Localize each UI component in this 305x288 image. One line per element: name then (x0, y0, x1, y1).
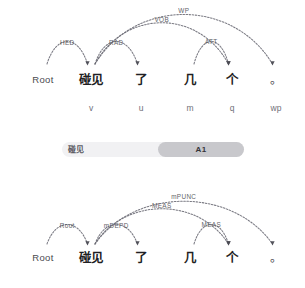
arc-label: VOB (154, 16, 169, 23)
semantic-dependency-parse: RootmDEPDMEASMEASmPUNC Root碰见了几个。 (0, 186, 305, 288)
predicate-label: 碰见 (68, 142, 83, 157)
arc-label: MEAS (152, 202, 172, 209)
semantic-role-bar[interactable]: 碰见 A1 (62, 142, 244, 157)
pos-tag-3[interactable]: m (186, 98, 193, 118)
arc-curve (95, 42, 138, 65)
token-5[interactable]: 。 (270, 70, 282, 90)
arc-label: MEAS (201, 221, 221, 228)
token-0[interactable]: Root (32, 248, 53, 268)
token-row: Root碰见了几个。 (0, 70, 305, 90)
dependency-arc-wp-4: WP (95, 7, 275, 66)
token-row: Root碰见了几个。 (0, 248, 305, 268)
arc-label: WP (178, 7, 189, 14)
dependency-arc-hed-0: HED (47, 39, 90, 66)
syntactic-dependency-parse: HEDRADATTVOBWP Root碰见了几个。 vumqwp (0, 0, 305, 130)
arc-curve (95, 209, 229, 244)
dependency-arc-vob-3: VOB (95, 16, 231, 66)
token-1[interactable]: 碰见 (79, 70, 104, 90)
arrow-head-icon (85, 241, 89, 245)
token-4[interactable]: 个 (226, 248, 239, 268)
arc-label: mPUNC (171, 193, 196, 200)
role-chip-a1[interactable]: A1 (158, 142, 244, 157)
token-5[interactable]: 。 (270, 248, 282, 268)
parse-visualization-page: HEDRADATTVOBWP Root碰见了几个。 vumqwp 碰见 A1 R… (0, 0, 305, 288)
arc-label: Root (60, 222, 75, 229)
dependency-arc-meas-3: MEAS (95, 202, 231, 246)
arc-curve (95, 225, 138, 245)
arc-curve (95, 201, 273, 244)
dependency-arc-mpunc-4: mPUNC (95, 193, 275, 246)
arc-label: RAD (109, 39, 124, 46)
arrow-head-icon (226, 61, 230, 65)
arc-curve (194, 225, 229, 245)
arc-curve (47, 42, 88, 65)
dependency-arc-mdepd-1: mDEPD (95, 222, 140, 246)
arrow-head-icon (226, 241, 230, 245)
dependency-arc-rad-1: RAD (95, 39, 140, 66)
arrow-head-icon (135, 61, 139, 65)
token-4[interactable]: 个 (226, 70, 239, 90)
arc-label: mDEPD (104, 222, 129, 229)
arc-label: ATT (205, 38, 218, 45)
token-2[interactable]: 了 (135, 248, 148, 268)
token-3[interactable]: 几 (184, 248, 197, 268)
arrow-head-icon (85, 61, 89, 65)
arrow-head-icon (226, 61, 230, 65)
arc-curve (194, 42, 229, 65)
token-1[interactable]: 碰见 (79, 248, 104, 268)
pos-tag-2[interactable]: u (139, 98, 144, 118)
pos-tag-row: vumqwp (0, 98, 305, 118)
arc-curve (95, 23, 229, 64)
token-0[interactable]: Root (32, 70, 53, 90)
dependency-arc-root-0: Root (47, 222, 90, 246)
arrow-head-icon (135, 241, 139, 245)
dependency-arc-att-2: ATT (194, 38, 231, 66)
token-3[interactable]: 几 (184, 70, 197, 90)
dependency-arc-meas-2: MEAS (194, 221, 231, 246)
pos-tag-1[interactable]: v (89, 98, 93, 118)
dependency-arc-layer: HEDRADATTVOBWP (0, 0, 305, 80)
pos-tag-5[interactable]: wp (271, 98, 282, 118)
arrow-head-icon (270, 241, 274, 245)
arc-label: HED (60, 39, 75, 46)
pos-tag-4[interactable]: q (230, 98, 235, 118)
token-2[interactable]: 了 (135, 70, 148, 90)
arrow-head-icon (270, 61, 274, 65)
arc-curve (47, 225, 88, 245)
arc-curve (95, 15, 273, 65)
arrow-head-icon (226, 241, 230, 245)
